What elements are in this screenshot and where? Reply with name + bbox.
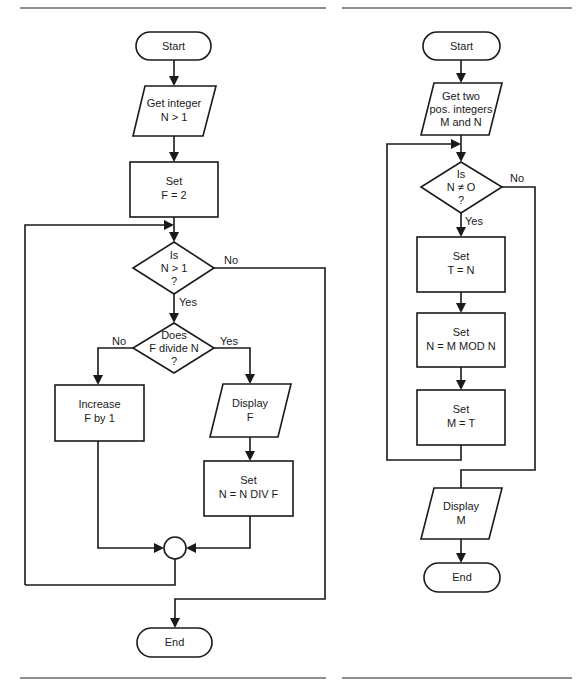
left-d1-line1: Is: [170, 249, 179, 261]
arrow-down-icon: [456, 73, 466, 83]
arrow-down-icon: [456, 303, 466, 313]
right-step2-line2: N = M MOD N: [426, 340, 495, 352]
right-input-line2: pos. integers: [430, 103, 493, 115]
arrow-right-icon: [164, 220, 174, 230]
arrow-down-icon: [456, 227, 466, 237]
left-init-line1: Set: [166, 175, 183, 187]
arrow-down-icon: [456, 380, 466, 390]
arrow-down-icon: [170, 618, 180, 628]
left-d1-line2: N > 1: [161, 262, 188, 274]
arrow-down-icon: [169, 232, 179, 242]
left-divide-line1: Set: [240, 474, 257, 486]
arrow-right-icon: [154, 543, 164, 553]
right-step3-line2: M = T: [447, 417, 476, 429]
left-increase-line1: Increase: [78, 398, 120, 410]
right-step1-line2: T = N: [447, 264, 474, 276]
right-step3-line1: Set: [453, 403, 470, 415]
right-start-terminal: Start: [423, 32, 500, 60]
right-d-yes-label: Yes: [465, 215, 483, 227]
arrow-down-icon: [169, 152, 179, 162]
right-step1-line1: Set: [453, 250, 470, 262]
right-input-line1: Get two: [442, 90, 480, 102]
left-divide-box: Set N = N DIV F: [204, 461, 293, 516]
right-end-label: End: [452, 571, 472, 583]
arrow-left-icon: [186, 543, 196, 553]
left-decision-f-divides-n: Does F divide N ?: [133, 323, 214, 373]
left-flowchart: Start Get integer N > 1 Set F = 2 Is N >…: [25, 32, 325, 657]
left-display-line2: F: [247, 411, 254, 423]
right-end-terminal: End: [424, 563, 500, 592]
left-init-box: Set F = 2: [130, 162, 218, 217]
right-start-label: Start: [450, 40, 473, 52]
left-input-line2: N > 1: [161, 111, 188, 123]
arrow-down-icon: [93, 375, 103, 385]
left-end-terminal: End: [137, 628, 212, 657]
left-decision-n-gt-1: Is N > 1 ?: [133, 242, 214, 294]
right-step2-box: Set N = M MOD N: [417, 313, 505, 367]
right-d-line3: ?: [458, 194, 464, 206]
arrow-down-icon: [169, 76, 179, 86]
arrow-down-icon: [456, 152, 466, 162]
left-input-line1: Get integer: [147, 97, 202, 109]
left-d1-line3: ?: [171, 275, 177, 287]
right-display-line2: M: [456, 514, 465, 526]
right-d-line1: Is: [457, 168, 466, 180]
right-display-parallelogram: Display M: [421, 488, 502, 539]
left-start-terminal: Start: [136, 32, 211, 60]
right-d-no-label: No: [510, 172, 524, 184]
arrow-down-icon: [245, 374, 255, 384]
left-input-parallelogram: Get integer N > 1: [133, 86, 216, 136]
left-increase-line2: F by 1: [84, 412, 115, 424]
arrow-right-icon: [451, 139, 461, 149]
arrow-down-icon: [456, 553, 466, 563]
arrow-down-icon: [169, 313, 179, 323]
right-step3-box: Set M = T: [417, 390, 505, 445]
left-d2-no-label: No: [112, 335, 126, 347]
left-display-parallelogram: Display F: [210, 384, 291, 437]
left-d2-yes-label: Yes: [220, 335, 238, 347]
left-increase-box: Increase F by 1: [55, 385, 144, 441]
left-d2-line3: ?: [171, 355, 177, 367]
left-start-label: Start: [162, 40, 185, 52]
left-connector-circle: [164, 537, 186, 559]
right-display-line1: Display: [443, 500, 480, 512]
left-init-line2: F = 2: [161, 189, 186, 201]
right-flowchart: Start Get two pos. integers M and N Is N…: [387, 32, 535, 592]
left-display-line1: Display: [232, 397, 269, 409]
right-step2-line1: Set: [453, 326, 470, 338]
left-d1-yes-label: Yes: [179, 296, 197, 308]
right-input-parallelogram: Get two pos. integers M and N: [421, 83, 502, 135]
right-decision-n-ne-0: Is N ≠ O ?: [421, 162, 502, 213]
right-step1-box: Set T = N: [417, 237, 505, 292]
left-d2-line2: F divide N: [149, 342, 199, 354]
left-divide-line2: N = N DIV F: [219, 488, 279, 500]
right-d-line2: N ≠ O: [447, 181, 476, 193]
left-end-label: End: [165, 636, 185, 648]
left-d2-line1: Does: [161, 329, 187, 341]
flowchart-canvas: Start Get integer N > 1 Set F = 2 Is N >…: [0, 0, 579, 685]
arrow-down-icon: [245, 451, 255, 461]
right-input-line3: M and N: [440, 116, 482, 128]
left-d1-no-label: No: [224, 254, 238, 266]
